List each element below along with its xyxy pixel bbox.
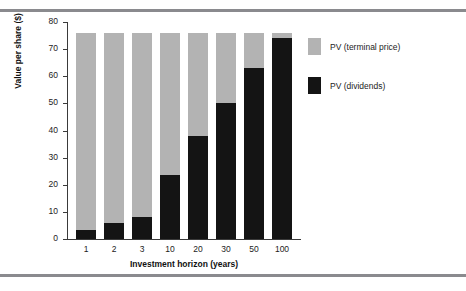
x-tick-label: 100 [267, 244, 297, 255]
y-tick-mark [63, 76, 67, 77]
top-rule [0, 9, 466, 12]
bar-stack [160, 33, 180, 239]
chart-legend: PV (terminal price)PV (dividends) [308, 38, 400, 116]
x-axis-title: Investment horizon (years) [68, 259, 300, 269]
y-tick-mark [63, 22, 67, 23]
bar-segment-dividends [76, 230, 96, 239]
x-axis-line [67, 239, 301, 240]
y-tick-label: 0 [53, 233, 58, 244]
y-tick-mark [63, 103, 67, 104]
y-tick-label: 20 [49, 179, 58, 190]
figure-container: 01020304050607080 12310203050100 Value p… [0, 0, 466, 291]
bar-segment-dividends [216, 103, 236, 239]
y-tick-label: 60 [49, 70, 58, 81]
bar-segment-terminal-price [244, 33, 264, 68]
bar-stack [272, 33, 292, 239]
y-tick-mark [63, 185, 67, 186]
bar-stack [104, 33, 124, 239]
y-tick-label: 40 [49, 125, 58, 136]
bar-segment-terminal-price [132, 33, 152, 217]
bar-stack [132, 33, 152, 239]
bar-stack [188, 33, 208, 239]
bar-stack [216, 33, 236, 239]
bar-stack [76, 33, 96, 239]
x-tick-label: 2 [99, 244, 129, 255]
y-tick-mark [63, 49, 67, 50]
bar-stack [244, 33, 264, 239]
legend-label: PV (terminal price) [330, 42, 400, 52]
bottom-rule [0, 274, 466, 277]
bar-segment-dividends [188, 136, 208, 239]
x-tick-label: 20 [183, 244, 213, 255]
legend-label: PV (dividends) [330, 81, 385, 91]
y-tick-label: 10 [49, 206, 58, 217]
bar-segment-dividends [160, 175, 180, 239]
legend-swatch [308, 77, 321, 94]
y-tick-mark [63, 131, 67, 132]
bar-segment-terminal-price [76, 33, 96, 230]
y-tick-label: 70 [49, 43, 58, 54]
y-tick-mark [63, 239, 67, 240]
y-tick-label: 50 [49, 97, 58, 108]
y-axis-title: Value per share ($) [13, 0, 23, 106]
legend-item: PV (terminal price) [308, 38, 400, 55]
legend-swatch [308, 38, 321, 55]
x-tick-label: 10 [155, 244, 185, 255]
bar-segment-dividends [104, 223, 124, 239]
x-tick-label: 50 [239, 244, 269, 255]
x-tick-label: 30 [211, 244, 241, 255]
x-tick-label: 1 [71, 244, 101, 255]
legend-item: PV (dividends) [308, 77, 400, 94]
bar-segment-dividends [132, 217, 152, 239]
y-tick-mark [63, 212, 67, 213]
bar-segment-dividends [272, 38, 292, 239]
x-tick-label: 3 [127, 244, 157, 255]
bar-segment-terminal-price [104, 33, 124, 223]
plot-area [68, 22, 292, 239]
bar-segment-terminal-price [216, 33, 236, 104]
y-tick-label: 30 [49, 152, 58, 163]
bar-segment-terminal-price [188, 33, 208, 136]
y-tick-label: 80 [49, 16, 58, 27]
y-tick-mark [63, 158, 67, 159]
bar-segment-dividends [244, 68, 264, 239]
bar-segment-terminal-price [160, 33, 180, 175]
